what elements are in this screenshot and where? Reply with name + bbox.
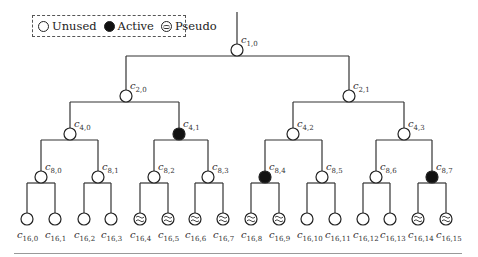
node-label: c16,10	[297, 229, 323, 243]
pseudo-node-icon	[217, 213, 229, 225]
node-label: c4,2	[297, 118, 314, 132]
code-node-16-10: c16,10	[297, 213, 323, 243]
code-node-16-1: c16,1	[45, 213, 66, 243]
code-node-8-0: c8,0	[35, 161, 62, 183]
node-label: c16,3	[101, 229, 122, 243]
code-node-16-15: c16,15	[436, 213, 462, 243]
ovsf-code-tree: c1,0c2,0c2,1c4,0c4,1c4,2c4,3c8,0c8,1c8,2…	[0, 0, 478, 257]
unused-node-icon	[120, 90, 132, 102]
code-node-16-12: c16,12	[353, 213, 379, 243]
code-node-2-0: c2,0	[120, 80, 147, 102]
pseudo-node-icon	[440, 213, 452, 225]
pseudo-node-icon	[273, 213, 285, 225]
node-label: c16,4	[130, 229, 152, 243]
active-node-icon	[259, 171, 271, 183]
code-node-4-0: c4,0	[64, 118, 91, 140]
pseudo-node-icon	[412, 213, 424, 225]
node-label: c16,12	[353, 229, 379, 243]
code-node-16-14: c16,14	[408, 213, 434, 243]
node-label: c16,7	[213, 229, 234, 243]
node-label: c4,1	[183, 118, 200, 132]
code-node-8-3: c8,3	[202, 161, 229, 183]
unused-node-icon	[78, 213, 90, 225]
code-node-4-2: c4,2	[287, 118, 314, 140]
node-label: c16,15	[436, 229, 462, 243]
pseudo-node-icon	[245, 213, 257, 225]
code-node-16-5: c16,5	[158, 213, 179, 243]
code-node-16-13: c16,13	[380, 213, 406, 243]
code-node-8-2: c8,2	[148, 161, 175, 183]
code-node-8-1: c8,1	[92, 161, 119, 183]
unused-node-icon	[329, 213, 341, 225]
code-node-16-9: c16,9	[269, 213, 290, 243]
code-node-8-5: c8,5	[316, 161, 343, 183]
pseudo-node-icon	[162, 213, 174, 225]
code-node-16-11: c16,11	[325, 213, 351, 243]
code-node-16-2: c16,2	[74, 213, 95, 243]
node-label: c8,4	[269, 161, 286, 175]
unused-node-icon	[35, 171, 47, 183]
code-node-1-0: c1,0	[231, 34, 258, 56]
unused-node-icon	[49, 213, 61, 225]
node-label: c4,0	[74, 118, 91, 132]
node-label: c8,1	[102, 161, 119, 175]
unused-node-icon	[105, 213, 117, 225]
unused-node-icon	[231, 44, 243, 56]
code-node-16-4: c16,4	[130, 213, 152, 243]
node-label: c8,6	[380, 161, 397, 175]
node-label: c16,0	[17, 229, 38, 243]
unused-node-icon	[148, 171, 160, 183]
pseudo-node-icon	[189, 213, 201, 225]
code-node-8-4: c8,4	[259, 161, 286, 183]
node-label: c8,0	[45, 161, 62, 175]
active-node-icon	[173, 128, 185, 140]
node-label: c16,6	[185, 229, 207, 243]
code-node-16-7: c16,7	[213, 213, 234, 243]
unused-node-icon	[357, 213, 369, 225]
unused-node-icon	[92, 171, 104, 183]
unused-node-icon	[64, 128, 76, 140]
code-node-16-3: c16,3	[101, 213, 122, 243]
node-label: c8,3	[212, 161, 229, 175]
node-label: c16,2	[74, 229, 95, 243]
pseudo-node-icon	[134, 213, 146, 225]
code-node-4-3: c4,3	[398, 118, 425, 140]
node-label: c8,7	[436, 161, 453, 175]
code-node-2-1: c2,1	[343, 80, 370, 102]
code-node-8-6: c8,6	[370, 161, 397, 183]
unused-node-icon	[202, 171, 214, 183]
unused-node-icon	[370, 171, 382, 183]
unused-node-icon	[287, 128, 299, 140]
code-node-8-7: c8,7	[426, 161, 453, 183]
unused-node-icon	[21, 213, 33, 225]
unused-node-icon	[398, 128, 410, 140]
node-label: c16,11	[325, 229, 351, 243]
node-label: c8,5	[326, 161, 343, 175]
unused-node-icon	[301, 213, 313, 225]
node-label: c2,1	[353, 80, 370, 94]
unused-node-icon	[343, 90, 355, 102]
node-label: c16,8	[241, 229, 262, 243]
node-label: c1,0	[241, 34, 258, 48]
code-node-16-8: c16,8	[241, 213, 262, 243]
unused-node-icon	[316, 171, 328, 183]
node-label: c16,5	[158, 229, 179, 243]
node-label: c16,14	[408, 229, 434, 243]
node-label: c8,2	[158, 161, 175, 175]
bottom-divider	[14, 253, 462, 254]
active-node-icon	[426, 171, 438, 183]
code-node-4-1: c4,1	[173, 118, 200, 140]
node-label: c16,1	[45, 229, 66, 243]
node-label: c4,3	[408, 118, 425, 132]
code-node-16-0: c16,0	[17, 213, 38, 243]
node-label: c16,13	[380, 229, 406, 243]
node-label: c2,0	[130, 80, 147, 94]
node-label: c16,9	[269, 229, 290, 243]
unused-node-icon	[384, 213, 396, 225]
code-node-16-6: c16,6	[185, 213, 207, 243]
